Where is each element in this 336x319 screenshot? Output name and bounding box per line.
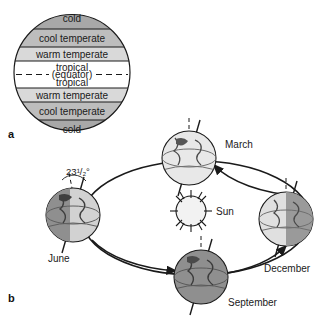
label-december: December xyxy=(264,263,311,274)
orbit-diagram: Sun March xyxy=(46,118,313,315)
figure-root: cold cool temperate warm temperate tropi… xyxy=(0,0,336,319)
label-june: June xyxy=(48,253,70,264)
earth-march xyxy=(162,118,216,196)
label-march: March xyxy=(225,139,253,150)
panel-letter-b: b xyxy=(8,292,15,304)
band-label-cool-temperate-south: cool temperate xyxy=(39,106,106,117)
band-label-warm-temperate-south: warm temperate xyxy=(35,90,109,101)
band-label-cold-south: cold xyxy=(63,124,81,135)
sun-icon xyxy=(170,190,212,232)
band-label-tropical-south: tropical xyxy=(56,77,88,88)
label-september: September xyxy=(228,297,278,308)
band-label-cool-temperate-north: cool temperate xyxy=(39,33,106,44)
earth-september xyxy=(174,236,228,315)
figure-svg: cold cool temperate warm temperate tropi… xyxy=(0,0,336,319)
earth-december xyxy=(259,178,313,257)
climate-zone-globe: cold cool temperate warm temperate tropi… xyxy=(10,10,134,142)
sun-label: Sun xyxy=(216,206,234,217)
panel-letter-a: a xyxy=(8,128,14,140)
band-label-warm-temperate-north: warm temperate xyxy=(35,49,109,60)
band-label-cold-north: cold xyxy=(63,13,81,24)
